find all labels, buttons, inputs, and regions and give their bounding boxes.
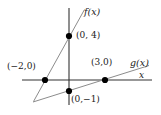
x-axis-label: x [139, 71, 144, 80]
point-label-0-neg1: (0,−1) [71, 95, 100, 104]
point-label-neg2-0: (−2,0) [7, 62, 36, 71]
point-label-3-0: (3,0) [91, 58, 112, 67]
graph-figure: f(x) (0, 4) (−2,0) (3,0) g(x) x (0,−1) [0, 0, 161, 115]
function-label-f: f(x) [84, 7, 100, 17]
point-label-0-4: (0, 4) [76, 31, 100, 40]
function-label-g: g(x) [130, 58, 149, 68]
point-marker-neg2-0 [42, 77, 48, 83]
point-marker-0-4 [66, 33, 72, 39]
point-marker-3-0 [102, 77, 108, 83]
